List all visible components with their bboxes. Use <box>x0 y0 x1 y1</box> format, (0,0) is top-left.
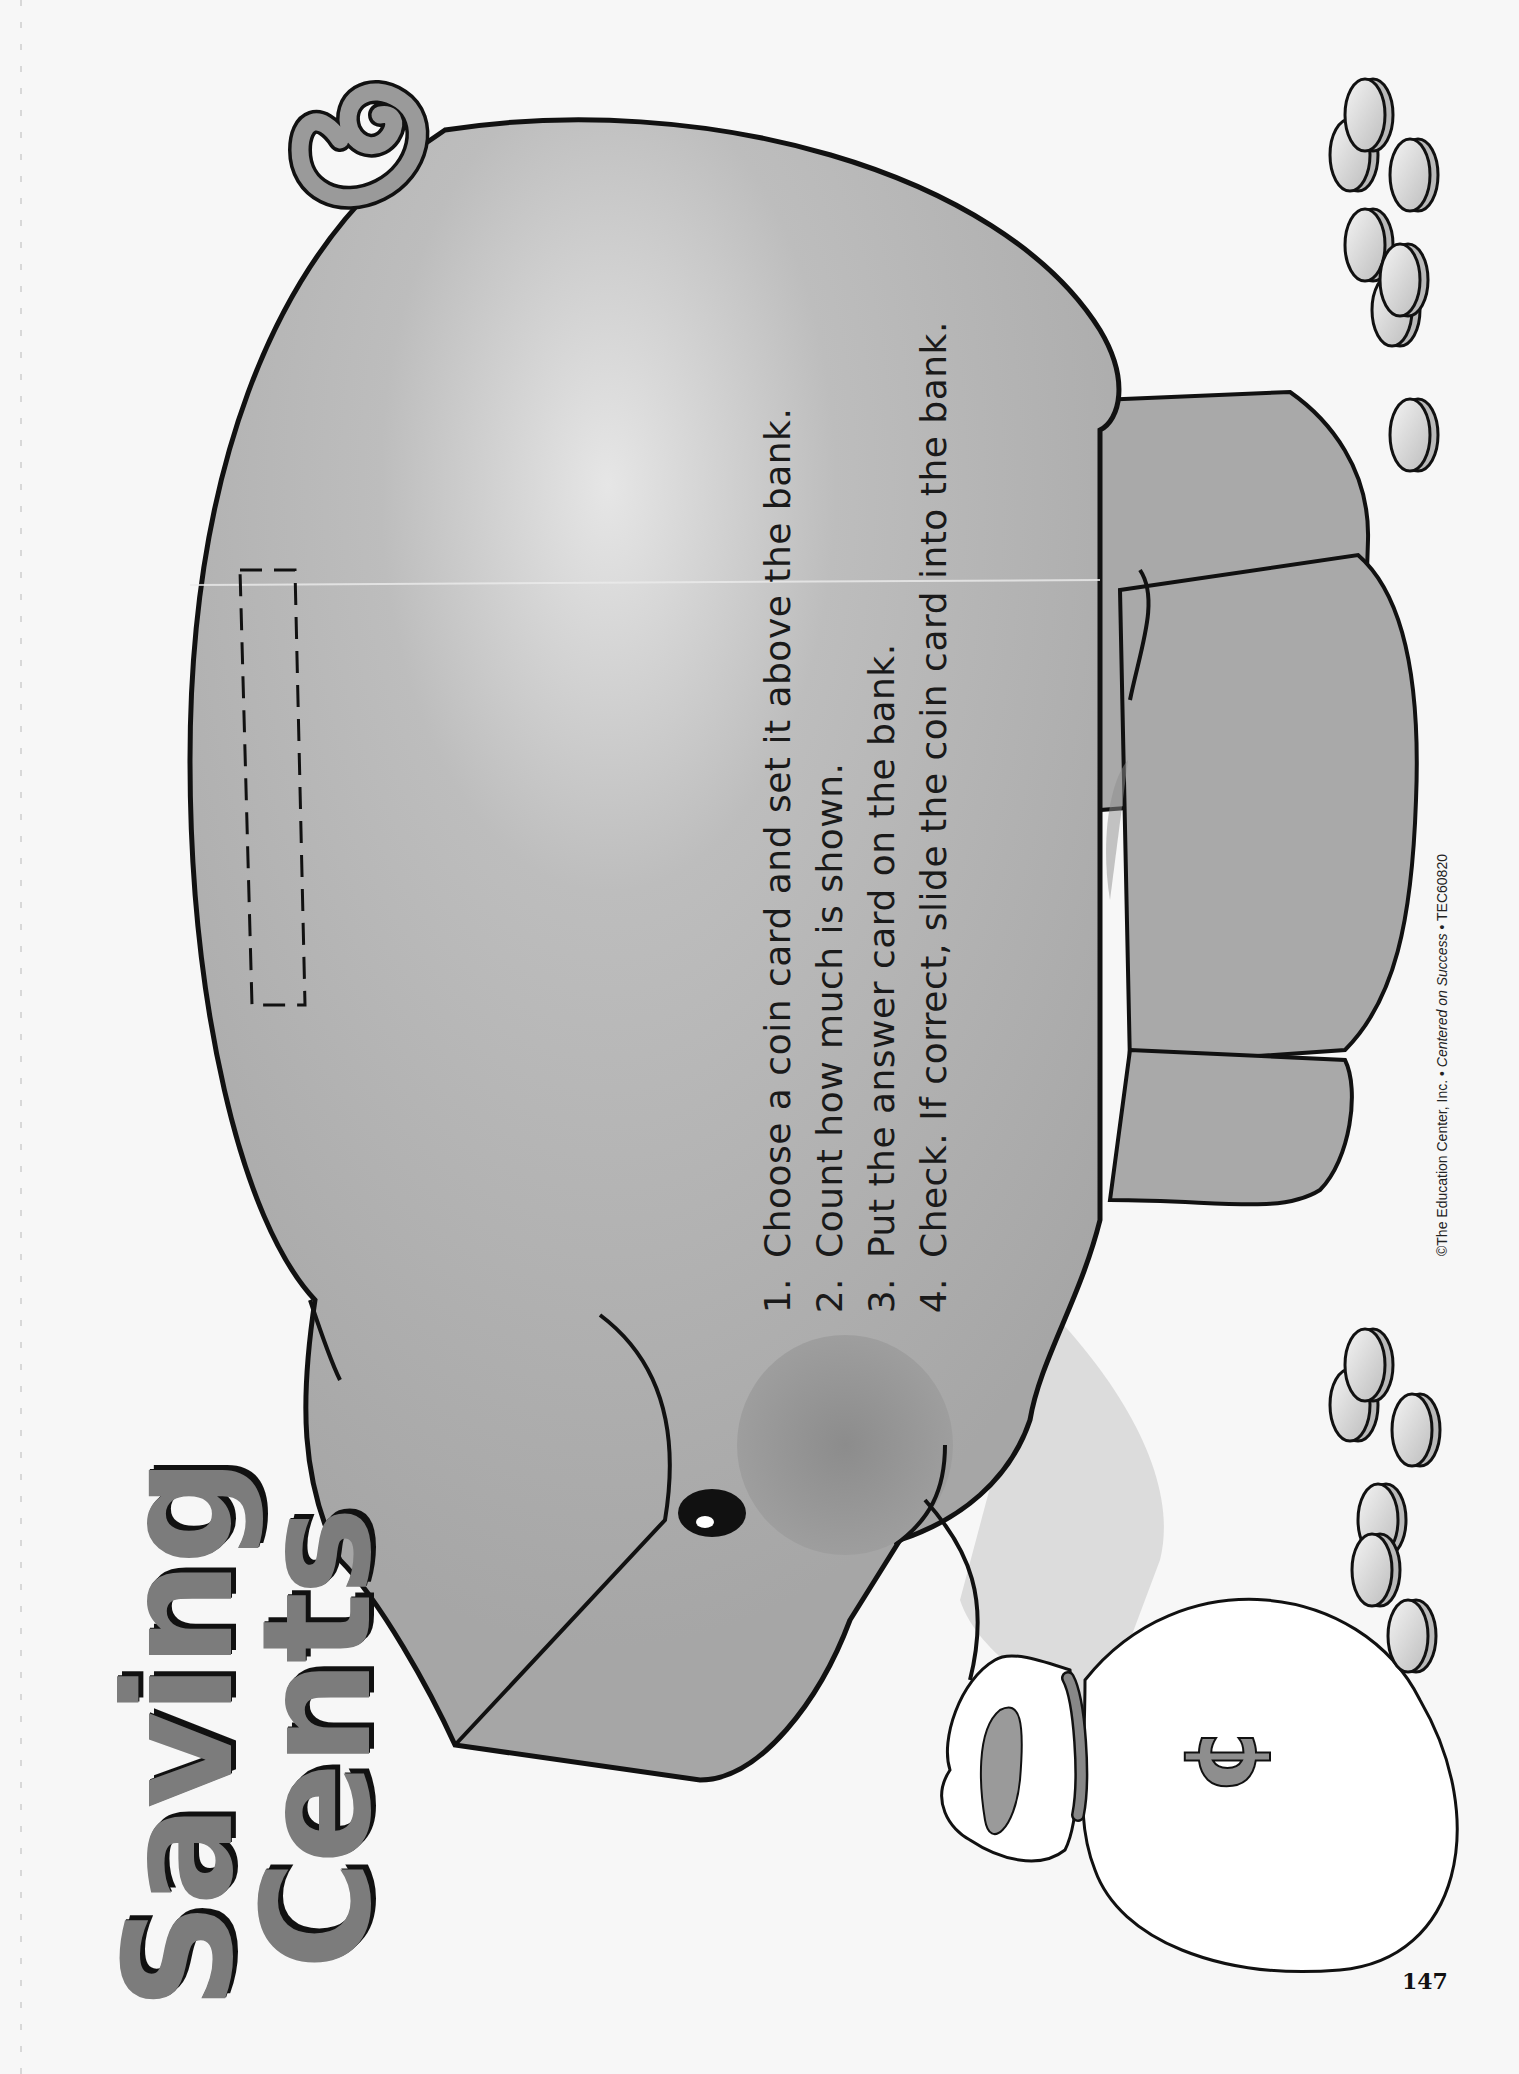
pig-eye <box>678 1489 746 1537</box>
title-line-saving: Saving <box>110 1461 248 2010</box>
cent-symbol: ¢ <box>1162 1725 1279 1795</box>
title-line-cents: Cents <box>248 1461 386 2010</box>
pig-legs <box>1100 392 1417 1204</box>
instruction-step-3: Put the answer card on the bank. <box>856 321 908 1266</box>
instruction-step-2: Count how much is shown. <box>804 321 856 1266</box>
coin-group-top <box>1330 79 1438 471</box>
copyright-prefix: ©The Education Center, Inc. • <box>1434 1067 1450 1256</box>
worksheet-title: Saving Cents <box>110 1461 386 2010</box>
instruction-step-4: Check. If correct, slide the coin card i… <box>908 321 960 1266</box>
coin-group-bottom <box>1330 1329 1440 1672</box>
copyright-line: ©The Education Center, Inc. • Centered o… <box>1434 854 1450 1256</box>
instructions-list: Choose a coin card and set it above the … <box>752 321 960 1320</box>
copyright-code: • TEC60820 <box>1434 854 1450 933</box>
copyright-tagline: Centered on Success <box>1434 933 1450 1067</box>
page-number: 147 <box>1402 1968 1448 1994</box>
instruction-step-1: Choose a coin card and set it above the … <box>752 321 804 1266</box>
money-bag: ¢ <box>942 1599 1457 1971</box>
